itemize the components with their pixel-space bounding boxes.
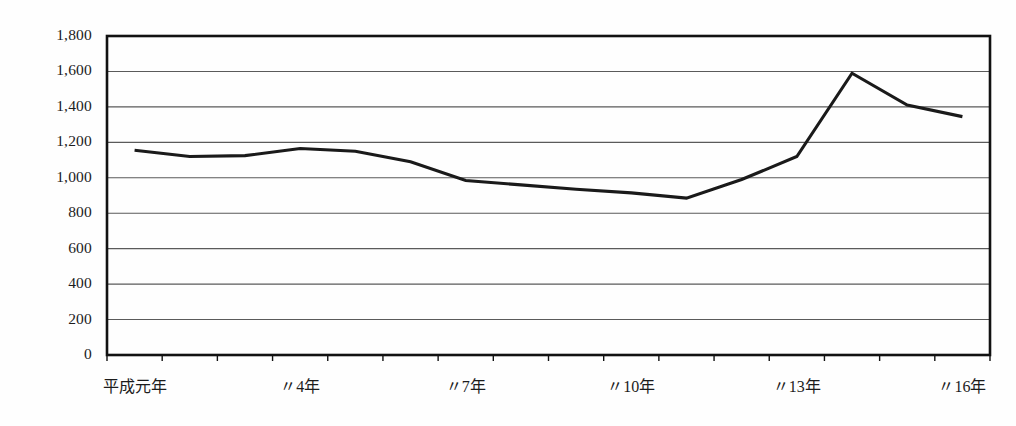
gridline-group	[107, 71, 990, 319]
plot-frame	[107, 36, 990, 355]
y-axis-tick-label: 800	[14, 203, 92, 221]
y-axis-tick-label: 1,400	[14, 97, 92, 115]
y-axis-tick-label: 0	[14, 345, 92, 363]
y-axis-tick-label: 400	[14, 274, 92, 292]
chart-plot-area	[0, 0, 1016, 426]
x-axis-tick-label: 〃16年	[892, 373, 1016, 397]
x-axis-tick-label: 〃13年	[727, 373, 867, 397]
line-chart-figure: 02004006008001,0001,2001,4001,6001,800 平…	[0, 0, 1016, 426]
y-axis-tick-label: 1,200	[14, 132, 92, 150]
y-axis-tick-label: 1,000	[14, 168, 92, 186]
y-axis-tick-label: 600	[14, 239, 92, 257]
y-axis-tick-label: 1,800	[14, 26, 92, 44]
x-axis-tick-label: 〃10年	[561, 373, 701, 397]
x-axis-tick-label: 〃7年	[396, 373, 536, 397]
y-axis-tick-label: 200	[14, 310, 92, 328]
data-series-line	[135, 73, 963, 198]
x-axis-tick-label: 〃4年	[230, 373, 370, 397]
y-axis-tick-label: 1,600	[14, 61, 92, 79]
x-axis-tick-label: 平成元年	[65, 373, 205, 397]
